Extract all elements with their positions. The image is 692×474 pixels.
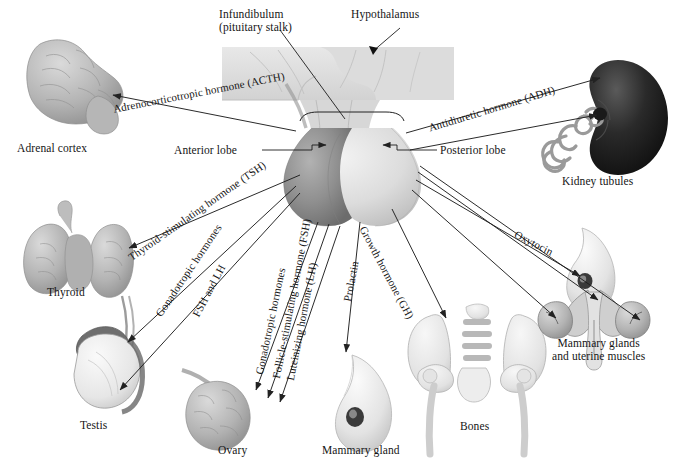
label-testis: Testis [80,419,107,432]
ovary-illustration [182,370,250,450]
arrow-oxytocin-uterus-1 [418,172,598,300]
label-ovary: Ovary [218,444,247,457]
label-bones: Bones [460,420,489,433]
label-posterior-lobe: Posterior lobe [440,144,506,157]
arrow-oxytocin-uterus-3 [412,190,556,318]
mammary-gland-illustration [335,355,391,452]
label-mammary-gland: Mammary gland [322,444,400,457]
label-adrenal-cortex: Adrenal cortex [17,142,87,155]
label-thyroid: Thyroid [47,286,85,299]
hypothalamus-illustration [222,47,454,134]
label-hypothalamus: Hypothalamus [351,8,419,21]
label-anterior-lobe: Anterior lobe [174,144,237,157]
pituitary-gland-illustration [284,112,421,226]
label-kidney-tubules: Kidney tubules [562,175,633,188]
thyroid-illustration [24,201,134,297]
figure-canvas: Infundibulum (pituitary stalk) Hypothala… [0,0,692,474]
adrenal-cortex-illustration [27,40,123,134]
label-mammary-uterine: Mammary glands and uterine muscles [552,337,645,363]
arrow-oxytocin-mammary [416,180,580,276]
diagram-artwork [0,0,692,474]
label-infundibulum: Infundibulum (pituitary stalk) [219,8,292,34]
testis-illustration [74,296,142,412]
